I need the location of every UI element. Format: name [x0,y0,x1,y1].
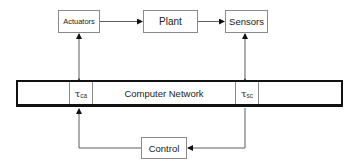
edge-control-network [79,109,141,148]
network-label: Computer Network [93,82,235,104]
control-label: Control [149,143,180,154]
control-block: Control [141,137,187,159]
delay-ca-cell: τca [69,82,93,104]
computer-network-bar: τca Computer Network τsc [16,80,343,107]
sensors-label: Sensors [229,16,264,27]
plant-label: Plant [159,16,182,27]
tau-sc-subscript: sc [247,92,254,99]
sensors-block: Sensors [225,10,268,33]
actuators-block: Actuators [58,10,100,33]
edge-network-control [188,108,245,148]
actuators-label: Actuators [63,17,95,26]
plant-block: Plant [143,10,198,33]
delay-sc-cell: τsc [235,82,259,104]
tau-ca-subscript: ca [80,92,87,99]
